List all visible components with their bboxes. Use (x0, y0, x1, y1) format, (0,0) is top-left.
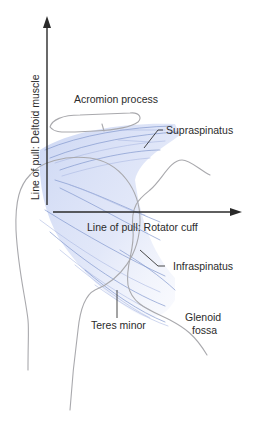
teres-minor-label: Teres minor (91, 319, 146, 331)
glenoid-fossa-label-line2: fossa (192, 324, 217, 336)
deltoid-line-label: Line of pull: Deltoid muscle (29, 74, 41, 200)
rotator-cuff-line-label: Line of pull: Rotator cuff (87, 221, 198, 233)
shoulder-diagram: Line of pull: Deltoid muscle Acromion pr… (0, 0, 254, 421)
glenoid-fossa-label-line1: Glenoid (185, 311, 221, 323)
humerus-shaft-left (16, 175, 30, 370)
supraspinatus-label: Supraspinatus (166, 124, 233, 136)
infraspinatus-label: Infraspinatus (173, 260, 233, 272)
acromion-label: Acromion process (74, 93, 158, 105)
